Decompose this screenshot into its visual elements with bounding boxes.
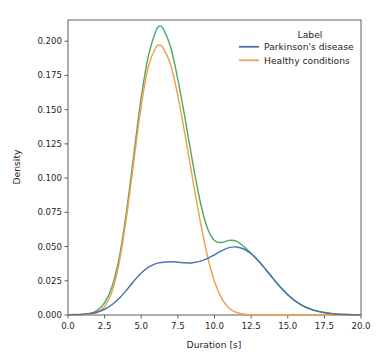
y-tick-label: 0.125 (37, 139, 62, 149)
y-tick-label: 0.175 (37, 70, 62, 80)
x-tick-label: 10.0 (205, 321, 224, 331)
y-tick-label: 0.075 (37, 207, 62, 217)
y-tick-label: 0.025 (37, 276, 62, 286)
x-tick-label: 5.0 (134, 321, 148, 331)
legend-title: Label (298, 29, 323, 40)
x-tick-label: 0.0 (61, 321, 75, 331)
y-tick-label: 0.150 (37, 105, 62, 115)
y-tick-label: 0.100 (37, 173, 62, 183)
x-tick-label: 7.5 (171, 321, 185, 331)
y-axis-title: Density (11, 149, 22, 184)
x-tick-label: 12.5 (242, 321, 261, 331)
y-tick-label: 0.200 (37, 36, 62, 46)
density-plot-svg: 0.0000.0250.0500.0750.1000.1250.1500.175… (0, 0, 387, 355)
x-axis-ticks: 0.02.55.07.510.012.515.017.520.0 (61, 315, 370, 331)
x-tick-label: 17.5 (315, 321, 334, 331)
legend-label-parkinsons-disease: Parkinson's disease (264, 41, 354, 52)
x-tick-label: 20.0 (351, 321, 370, 331)
y-axis-ticks: 0.0000.0250.0500.0750.1000.1250.1500.175… (37, 36, 68, 320)
y-tick-label: 0.050 (37, 242, 62, 252)
x-tick-label: 2.5 (98, 321, 112, 331)
legend-label-healthy-conditions: Healthy conditions (264, 55, 350, 66)
x-tick-label: 15.0 (278, 321, 297, 331)
y-tick-label: 0.000 (37, 310, 62, 320)
x-axis-title: Duration [s] (187, 339, 242, 350)
kde-density-chart-figure: 0.0000.0250.0500.0750.1000.1250.1500.175… (0, 0, 387, 355)
